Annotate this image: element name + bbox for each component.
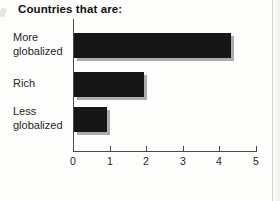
bar-less-globalized: [74, 107, 107, 132]
category-label-rich: Rich: [13, 77, 71, 91]
category-label-less-globalized: Less globalized: [13, 105, 71, 132]
x-tick: [146, 146, 147, 151]
x-tick: [219, 146, 220, 151]
x-tick-label: 3: [173, 155, 193, 167]
x-tick-label: 4: [209, 155, 229, 167]
x-tick: [256, 146, 257, 151]
x-tick-label: 1: [100, 155, 120, 167]
page-edge-line: [272, 0, 273, 201]
category-label-more-globalized: More globalized: [13, 31, 71, 58]
x-tick: [73, 146, 74, 151]
chart-figure: Countries that are: More globalized Rich…: [0, 0, 280, 201]
x-tick: [183, 146, 184, 151]
y-axis-line: [73, 19, 74, 152]
page-edge-shading: [274, 0, 280, 201]
chart-title: Countries that are:: [18, 3, 122, 15]
x-tick-label: 2: [136, 155, 156, 167]
bar-more-globalized: [74, 33, 231, 58]
scan-artifact: [0, 7, 7, 17]
x-axis-line: [73, 151, 257, 152]
bar-rich: [74, 72, 144, 97]
x-tick-label: 5: [246, 155, 266, 167]
x-tick: [110, 146, 111, 151]
x-tick-label: 0: [63, 155, 83, 167]
